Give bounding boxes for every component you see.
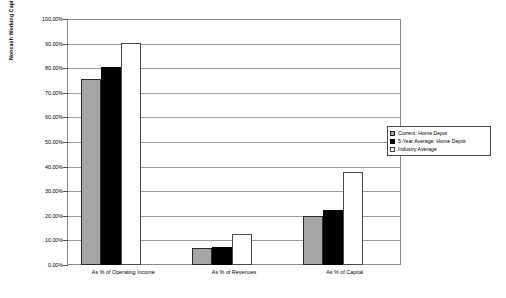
chart-legend: Current: Home Depot5-Year Average: Home …	[387, 126, 491, 156]
bar-1	[323, 210, 343, 265]
bar-2	[121, 43, 141, 265]
x-axis-category-label: As % of Revenues	[179, 269, 290, 275]
bar-0	[81, 79, 101, 265]
bars-layer	[68, 20, 400, 265]
y-axis-tick-label: 60.00%	[15, 114, 63, 120]
bar-2	[232, 234, 252, 265]
y-axis-tick-label: 30.00%	[15, 188, 63, 194]
legend-swatch-icon	[390, 131, 395, 136]
y-axis-tick-label: 50.00%	[15, 139, 63, 145]
y-axis-tick-label: 40.00%	[15, 164, 63, 170]
legend-swatch-icon	[390, 139, 395, 144]
x-axis-category-label: As % of Capital	[289, 269, 400, 275]
bar-0	[303, 216, 323, 265]
bar-2	[343, 172, 363, 265]
legend-swatch-icon	[390, 147, 395, 152]
bar-group	[179, 20, 290, 265]
legend-item[interactable]: Industry Average	[390, 145, 487, 153]
y-axis-tick-label: 0.00%	[15, 262, 63, 268]
y-axis-tick-label: 70.00%	[15, 90, 63, 96]
legend-label: Industry Average	[398, 146, 437, 152]
y-axis-tick-mark	[63, 265, 68, 266]
y-axis-tick-label: 90.00%	[15, 41, 63, 47]
bar-1	[212, 247, 232, 265]
y-axis-tick-label: 10.00%	[15, 237, 63, 243]
legend-item[interactable]: 5-Year Average: Home Depot	[390, 137, 487, 145]
x-axis-category-label: As % of Operating Income	[68, 269, 179, 275]
legend-label: 5-Year Average: Home Depot	[398, 138, 465, 144]
y-axis-tick-label: 100.00%	[15, 16, 63, 22]
bar-0	[192, 248, 212, 265]
bar-group	[289, 20, 400, 265]
bar-1	[101, 67, 121, 265]
bar-chart: Noncash Working Capital as % of Revenues…	[0, 0, 506, 298]
y-axis-title: Noncash Working Capital as % of Revenues	[8, 0, 14, 60]
y-axis-tick-label: 80.00%	[15, 65, 63, 71]
y-axis-tick-label: 20.00%	[15, 213, 63, 219]
legend-label: Current: Home Depot	[398, 130, 447, 136]
bar-group	[68, 20, 179, 265]
legend-item[interactable]: Current: Home Depot	[390, 129, 487, 137]
